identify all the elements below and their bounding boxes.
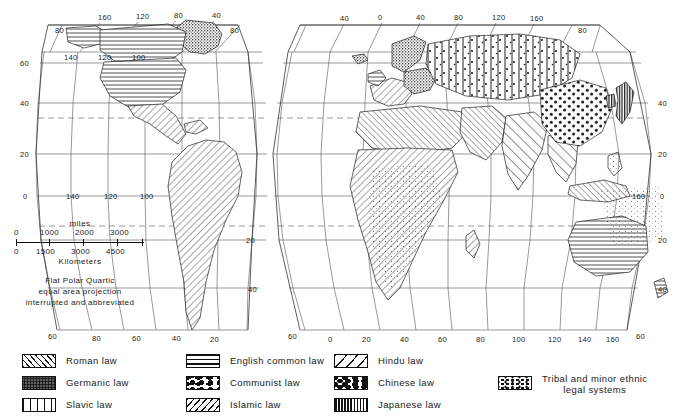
legend-label: Roman law [66,354,117,368]
lat-label: 20 [658,150,667,159]
large-dots-swatch-icon [334,376,368,390]
vertical-lines-swatch-icon [22,398,56,412]
legend-label: Slavic law [66,398,112,412]
lon-label: 40 [416,13,425,22]
legend-item-islamic-law[interactable]: Islamic law [186,396,356,418]
lon-label: 160 [606,335,620,344]
legend-column-4: Tribal and minor ethniclegal systems [498,374,678,396]
lon-label: 100 [140,192,154,201]
legend-label: Tribal and minor ethniclegal systems [542,373,647,395]
lon-label: 60 [438,335,447,344]
scale-tick-label: 0 [14,228,19,237]
lat-label: 60 [20,59,29,68]
land-scandinavia [392,36,426,72]
legend-item-japanese-law[interactable]: Japanese law [334,396,484,418]
lat-label: 20 [658,236,667,245]
land-middle-east [460,106,506,160]
lat-label: 40 [658,99,667,108]
lon-label: 140 [66,192,80,201]
stipple-swatch-icon [22,376,56,390]
legend-label: Hindu law [378,354,423,368]
legend-item-chinese-law[interactable]: Chinese law [334,374,484,396]
legend-label: Japanese law [378,398,441,412]
lat-label: 80 [230,26,239,35]
legend-item-tribal-law[interactable]: Tribal and minor ethniclegal systems [498,374,678,396]
legend-column-1: Roman law Germanic law Slavic law [22,352,182,418]
lon-label: 40 [400,335,409,344]
lon-label: 100 [512,335,526,344]
scale-miles-title: miles [14,219,146,228]
dense-vertical-swatch-icon [334,398,368,412]
legend-item-hindu-law[interactable]: Hindu law [334,352,484,374]
land-iceland [352,54,368,64]
land-madagascar [466,230,480,258]
legend-label: English common law [230,354,324,368]
lon-label: 120 [104,192,118,201]
scale-tick-label: 4500 [106,247,125,256]
projection-note: Flat Polar Quartic equal area projection… [14,275,146,308]
land-india [502,112,548,190]
lon-label: 80 [174,11,183,20]
scale-km-title: Kilometers [14,257,146,266]
legend-item-communist-law[interactable]: Communist law [186,374,356,396]
lat-label: 0 [660,192,665,201]
lat-label: 60 [48,332,57,341]
legend-item-slavic-law[interactable]: Slavic law [22,396,182,418]
land-south-america [168,140,242,330]
lon-label: 0 [378,13,383,22]
lat-label: 60 [636,332,645,341]
legend-column-2: English common law Communist law Islamic… [186,352,356,418]
projection-note-line: equal area projection [14,286,146,297]
legend-column-3: Hindu law Chinese law Japanese law [334,352,484,418]
wide-diagonal-swatch-icon [334,354,368,368]
lon-label: 120 [548,335,562,344]
lon-label: 140 [578,335,592,344]
map-legend: Roman law Germanic law Slavic law Englis… [0,352,683,419]
scale-block: miles 0 1000 2000 3000 0 1500 3000 4500 … [14,219,146,308]
lon-label: 120 [136,12,150,21]
lon-label: 80 [476,335,485,344]
lon-label: 80 [92,334,101,343]
land-united-states [100,58,186,108]
lon-label: 160 [530,14,544,23]
scale-bar [14,239,146,246]
land-philippines [608,152,622,176]
scale-tick-label: 2000 [75,228,94,237]
lon-label: 40 [172,334,181,343]
scale-tick-label: 1000 [40,228,59,237]
scale-tick-label: 3000 [110,228,129,237]
lon-label: 20 [210,335,219,344]
lon-label: 140 [64,53,78,62]
lon-label: 60 [132,334,141,343]
legend-item-english-common-law[interactable]: English common law [186,352,356,374]
sparse-dots-swatch-icon [186,376,220,390]
scale-tick-label: 1500 [36,247,55,256]
legend-item-roman-law[interactable]: Roman law [22,352,182,374]
land-north-africa [356,106,470,154]
legend-label: Communist law [230,376,300,390]
legend-label: Chinese law [378,376,434,390]
horizontal-lines-swatch-icon [186,354,220,368]
lat-label: 40 [248,285,257,294]
lon-label: 40 [212,11,221,20]
lon-label: 160 [632,192,646,201]
legend-label: Germanic law [66,376,129,390]
projection-note-line: Flat Polar Quartic [14,275,146,286]
fine-stipple-swatch-icon [498,376,532,390]
lon-label: 160 [98,13,112,22]
land-mexico-central-america [128,104,186,144]
lat-label: 20 [246,236,255,245]
lat-label: 80 [578,26,587,35]
lon-label: 40 [340,14,349,23]
lat-label: 80 [55,26,64,35]
projection-note-line: interrupted and abbreviated [14,297,146,308]
lat-label: 60 [288,332,297,341]
land-korea [606,94,616,108]
scale-miles-ticks: 0 1000 2000 3000 [14,228,146,238]
lon-label: 0 [328,335,333,344]
legend-label: Islamic law [230,398,281,412]
scale-km-ticks: 0 1500 3000 4500 [14,247,146,257]
back-diagonal-hatch-swatch-icon [186,398,220,412]
lon-label: 80 [454,13,463,22]
legend-item-germanic-law[interactable]: Germanic law [22,374,182,396]
